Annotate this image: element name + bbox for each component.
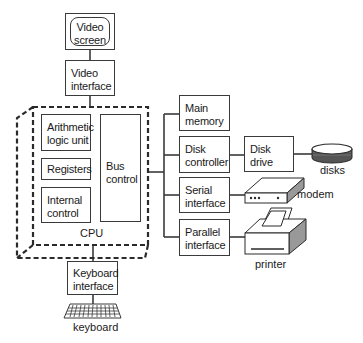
serial-interface-label-2: interface xyxy=(185,197,229,210)
alu-label-1: Arithmetic xyxy=(47,121,90,134)
video-interface-label-1: Video xyxy=(71,67,114,80)
bus-control-node: Bus control xyxy=(100,114,141,222)
main-memory-label-2: memory xyxy=(185,115,229,128)
keyboard-interface-node: Keyboard interface xyxy=(67,261,118,295)
bus-control-label-1: Bus xyxy=(106,160,140,173)
internal-control-node: Internal control xyxy=(41,187,91,223)
main-memory-node: Main memory xyxy=(179,95,230,131)
parallel-interface-node: Parallel interface xyxy=(179,219,230,256)
disk-drive-node: Disk drive xyxy=(244,136,294,172)
internal-control-label-2: control xyxy=(47,207,90,220)
video-interface-label-2: interface xyxy=(71,80,114,93)
registers-node: Registers xyxy=(41,158,91,180)
parallel-interface-label-1: Parallel xyxy=(185,226,229,239)
video-interface-node: Video interface xyxy=(65,60,115,96)
bus-control-label-2: control xyxy=(106,173,140,186)
internal-control-label-1: Internal xyxy=(47,194,90,207)
disk-drive-label-1: Disk xyxy=(250,143,293,156)
parallel-interface-label-2: interface xyxy=(185,239,229,252)
alu-node: Arithmetic logic unit xyxy=(41,114,91,151)
alu-label-2: logic unit xyxy=(47,134,90,147)
video-screen-label-2: screen xyxy=(71,34,109,47)
keyboard-label: keyboard xyxy=(73,321,118,334)
keyboard-interface-label-2: interface xyxy=(73,280,117,293)
registers-label: Registers xyxy=(47,163,90,176)
main-memory-label-1: Main xyxy=(185,102,229,115)
video-screen-label-1: Video xyxy=(71,21,109,34)
printer-icon xyxy=(245,208,306,254)
serial-interface-label-1: Serial xyxy=(185,184,229,197)
disk-drive-label-2: drive xyxy=(250,156,293,169)
disk-stack-icon xyxy=(312,144,352,163)
disk-controller-node: Disk controller xyxy=(179,136,230,173)
disks-label: disks xyxy=(320,164,345,177)
disk-controller-label-1: Disk xyxy=(185,143,229,156)
cpu-label: CPU xyxy=(80,227,103,240)
keyboard-interface-label-1: Keyboard xyxy=(73,267,117,280)
keyboard-icon xyxy=(64,304,121,318)
video-screen-node: Video screen xyxy=(65,13,115,50)
modem-icon xyxy=(245,178,304,203)
disk-controller-label-2: controller xyxy=(185,156,229,169)
video-screen-display: Video screen xyxy=(70,17,110,46)
serial-interface-node: Serial interface xyxy=(179,177,230,213)
printer-label: printer xyxy=(255,258,286,271)
modem-label: modem xyxy=(297,188,334,201)
